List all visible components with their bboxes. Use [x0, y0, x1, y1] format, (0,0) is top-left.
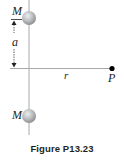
separation-label: a: [12, 36, 18, 48]
mass-top-sphere: [22, 11, 36, 25]
distance-label: r: [64, 70, 68, 81]
mass-top-label: M: [12, 5, 22, 17]
mass-bottom-label: M: [12, 109, 22, 121]
mass-bottom-sphere: [22, 109, 36, 123]
point-p-label: P: [108, 72, 115, 84]
physics-figure: M a r P M: [0, 0, 124, 135]
figure-caption: Figure P13.23: [0, 143, 124, 154]
